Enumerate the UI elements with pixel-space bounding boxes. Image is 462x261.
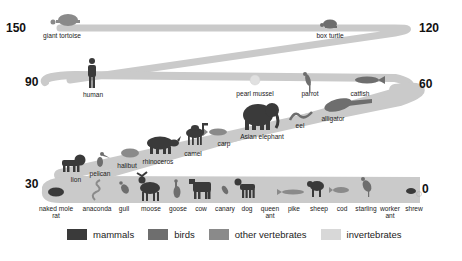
legend-item-other-vertebrates: other vertebrates bbox=[209, 229, 307, 240]
label-starling: starling bbox=[355, 205, 376, 212]
tick-90: 90 bbox=[25, 75, 38, 89]
human-icon bbox=[88, 58, 96, 88]
legend-item-mammals: mammals bbox=[67, 229, 134, 240]
label-shrew: shrew bbox=[405, 205, 423, 212]
tick-120: 120 bbox=[419, 21, 439, 35]
tick-150: 150 bbox=[6, 21, 26, 35]
label-cow: cow bbox=[195, 205, 207, 212]
shrew-icon bbox=[406, 188, 416, 194]
legend: mammals birds other vertebrates inverteb… bbox=[67, 229, 416, 240]
tick-30: 30 bbox=[25, 177, 38, 191]
naked-mole-rat-icon bbox=[48, 188, 64, 197]
label-rhinoceros: rhinoceros bbox=[143, 158, 174, 165]
legend-swatch-invertebrates bbox=[321, 229, 341, 240]
timeline-path bbox=[0, 0, 462, 261]
label-worker-ant: worker ant bbox=[380, 205, 400, 219]
label-pelican: pelican bbox=[90, 170, 111, 177]
label-naked-mole-rat: naked mole rat bbox=[39, 205, 73, 219]
label-sheep: sheep bbox=[310, 205, 328, 212]
label-giant-tortoise: giant tortoise bbox=[43, 32, 81, 39]
label-dog: dog bbox=[241, 205, 252, 212]
legend-swatch-birds bbox=[148, 229, 168, 240]
label-halibut: halibut bbox=[117, 162, 136, 169]
legend-item-invertebrates: invertebrates bbox=[321, 229, 402, 240]
tick-0: 0 bbox=[422, 182, 429, 196]
label-catfish: catfish bbox=[350, 90, 369, 97]
label-pike: pike bbox=[288, 205, 300, 212]
label-pearl-mussel: pearl mussel bbox=[236, 90, 273, 97]
label-eel: eel bbox=[296, 122, 305, 129]
label-cod: cod bbox=[337, 205, 348, 212]
pearl-mussel-icon bbox=[250, 75, 260, 85]
label-box-turtle: box turtle bbox=[316, 32, 343, 39]
legend-swatch-other-vertebrates bbox=[209, 229, 229, 240]
legend-item-birds: birds bbox=[148, 229, 195, 240]
label-camel: camel bbox=[184, 150, 202, 157]
label-asian-elephant: Asian elephant bbox=[240, 133, 284, 140]
label-carp: carp bbox=[218, 140, 231, 147]
lifespan-chart: 150 120 90 60 30 0 giant tortoise box tu… bbox=[0, 0, 462, 261]
label-lion: lion bbox=[71, 176, 81, 183]
label-canary: canary bbox=[215, 205, 235, 212]
label-alligator: alligator bbox=[321, 115, 344, 122]
label-human: human bbox=[83, 91, 103, 98]
label-moose: moose bbox=[141, 205, 161, 212]
tick-60: 60 bbox=[419, 77, 432, 91]
giant-tortoise-icon bbox=[51, 14, 81, 26]
label-parrot: parrot bbox=[301, 90, 318, 97]
legend-swatch-mammals bbox=[67, 229, 87, 240]
label-anaconda: anaconda bbox=[83, 205, 112, 212]
label-goose: goose bbox=[169, 205, 187, 212]
label-queen-ant: queen ant bbox=[261, 205, 279, 219]
label-gull: gull bbox=[119, 205, 129, 212]
halibut-icon bbox=[121, 149, 139, 158]
